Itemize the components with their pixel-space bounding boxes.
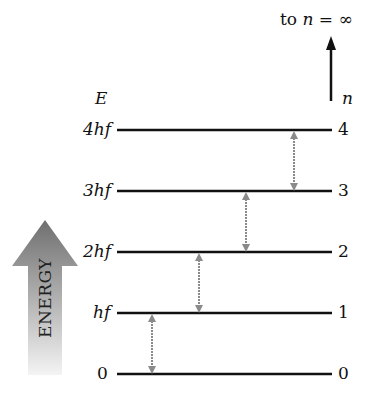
energy-label-1: hf <box>93 304 110 321</box>
energy-label-0: 0 <box>97 365 108 382</box>
n-label-3: 3 <box>338 182 349 199</box>
n-label-4: 4 <box>338 121 349 138</box>
energy-level-diagram <box>0 0 366 398</box>
energy-label-3: 3hf <box>83 182 111 199</box>
equals-infinity: = ∞ <box>313 9 352 29</box>
to-text: to <box>280 9 302 29</box>
level-lines <box>117 130 332 374</box>
n-var: n <box>302 9 313 29</box>
n-label-1: 1 <box>338 304 349 321</box>
n-label-0: 0 <box>338 365 349 382</box>
n-axis-label: n <box>342 90 353 107</box>
energy-label-2: 2hf <box>83 243 111 260</box>
to-infinity-arrow-icon <box>326 36 336 101</box>
to-infinity-label: to n = ∞ <box>280 11 353 28</box>
energy-arrow-label: ENERGY <box>37 258 54 338</box>
n-label-2: 2 <box>338 243 349 260</box>
energy-axis-label: E <box>95 90 107 107</box>
energy-label-4: 4hf <box>83 121 111 138</box>
